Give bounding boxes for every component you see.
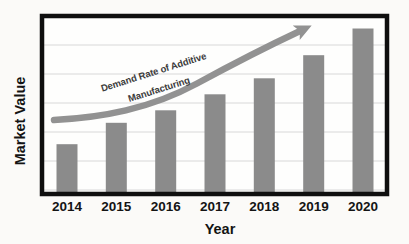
x-tick-label-2015: 2015 [101, 199, 132, 214]
bar-2018 [254, 78, 275, 194]
bar-2019 [303, 55, 324, 194]
bar-chart: Demand Rate of Additive Manufacturing 20… [0, 0, 409, 244]
y-axis-title: Market Value [12, 77, 28, 166]
bar-2017 [205, 94, 226, 194]
x-tick-label-2018: 2018 [249, 199, 280, 214]
x-tick-label-2020: 2020 [348, 199, 378, 214]
x-tick-label-2016: 2016 [151, 199, 182, 214]
market-value-figure: Demand Rate of Additive Manufacturing 20… [0, 0, 409, 244]
x-axis-title: Year [205, 221, 236, 237]
x-tick-label-2014: 2014 [52, 199, 83, 214]
bar-2015 [106, 123, 127, 194]
x-tick-label-2017: 2017 [200, 199, 230, 214]
bar-2014 [57, 144, 78, 194]
x-tick-label-2019: 2019 [299, 199, 329, 214]
x-axis-labels: 2014201520162017201820192020 [52, 199, 378, 214]
bar-2016 [155, 110, 176, 194]
bar-2020 [353, 29, 374, 195]
